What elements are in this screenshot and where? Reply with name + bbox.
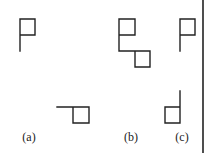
flag-top-a xyxy=(20,19,35,51)
panel-b: (b) xyxy=(119,19,150,144)
flag-top-c xyxy=(180,19,195,51)
flag-bottom-c xyxy=(165,91,180,123)
panel-a: (a) xyxy=(20,19,89,144)
panel-label-a: (a) xyxy=(22,130,35,144)
flag-bottom-a xyxy=(57,107,89,123)
panel-label-c: (c) xyxy=(175,130,188,144)
panel-c: (c) xyxy=(165,19,195,144)
panel-label-b: (b) xyxy=(124,130,138,144)
flag-figure-diagram: (a) (b) (c) xyxy=(0,0,205,153)
flag-b xyxy=(119,19,150,67)
